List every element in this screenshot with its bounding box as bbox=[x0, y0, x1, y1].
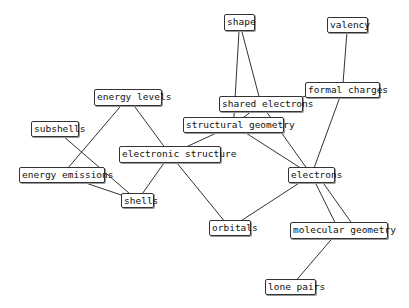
node-energy-emissions[interactable]: energy emissions bbox=[19, 167, 105, 183]
edge bbox=[170, 155, 230, 229]
edge bbox=[55, 129, 138, 201]
edge bbox=[240, 23, 262, 105]
edge bbox=[312, 90, 343, 175]
concept-map: shapevalencyformal chargesshared electro… bbox=[0, 0, 409, 308]
edge bbox=[261, 104, 312, 175]
node-orbitals[interactable]: orbitals bbox=[209, 220, 251, 236]
node-valency[interactable]: valency bbox=[327, 17, 368, 33]
node-shared-electrons[interactable]: shared electrons bbox=[219, 96, 303, 112]
node-subshells[interactable]: subshells bbox=[31, 121, 79, 137]
node-molecular-geometry[interactable]: molecular geometry bbox=[290, 222, 388, 239]
node-lone-pairs[interactable]: lone pairs bbox=[265, 279, 316, 295]
node-formal-charges[interactable]: formal charges bbox=[305, 82, 380, 98]
edge bbox=[343, 25, 348, 90]
node-electrons[interactable]: electrons bbox=[288, 167, 335, 183]
node-electronic-structure[interactable]: electronic structure bbox=[119, 146, 221, 163]
node-energy-levels[interactable]: energy levels bbox=[94, 89, 162, 106]
node-shells[interactable]: shells bbox=[121, 193, 154, 208]
node-shape[interactable]: shape bbox=[224, 14, 255, 31]
node-structural-geometry[interactable]: structural geometry bbox=[183, 117, 284, 133]
